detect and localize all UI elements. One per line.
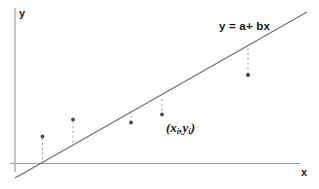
y-axis-label: y xyxy=(19,8,25,19)
x-axis-label: x xyxy=(301,167,307,178)
paren-close: ) xyxy=(191,120,195,135)
regression-equation-label: y = a+ bx xyxy=(219,20,270,32)
label-y-subscript: i xyxy=(188,126,190,136)
data-point-5 xyxy=(246,73,250,77)
regression-scatter-chart: y x y = a+ bx (xi,yi) xyxy=(0,0,319,189)
data-point-coordinate-label: (xi,yi) xyxy=(166,120,195,136)
label-x: x xyxy=(170,120,177,135)
regression-line xyxy=(15,12,307,178)
data-point-4 xyxy=(160,113,164,117)
chart-canvas xyxy=(0,0,319,189)
data-point-3 xyxy=(129,121,133,125)
label-x-subscript: i xyxy=(177,126,179,136)
data-point-2 xyxy=(71,118,75,122)
data-point-1 xyxy=(41,135,45,139)
